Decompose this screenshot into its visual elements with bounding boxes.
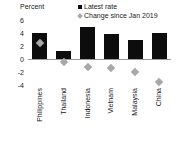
x-label-malaysia: Malaysia xyxy=(131,88,138,116)
plot-area xyxy=(28,20,171,85)
legend-square-icon xyxy=(78,5,82,9)
legend-diamond-icon xyxy=(77,13,83,19)
marker-indonesia xyxy=(83,63,91,71)
y-axis-ticks: -4-20246 xyxy=(8,20,24,85)
bar-indonesia xyxy=(80,27,95,59)
bar-vietnam xyxy=(104,34,119,59)
marker-china xyxy=(155,78,163,86)
y-tick-label: 0 xyxy=(8,56,24,63)
y-axis-title: Percent xyxy=(20,3,44,10)
x-label-philippines: Philippines xyxy=(36,88,43,122)
chart-container: Percent Latest rate Change since Jan 201… xyxy=(0,0,179,142)
legend-item-latest-rate: Latest rate xyxy=(78,2,158,11)
marker-vietnam xyxy=(107,64,115,72)
y-tick-label: 6 xyxy=(8,17,24,24)
x-label-china: China xyxy=(155,88,162,106)
y-tick-label: 2 xyxy=(8,43,24,50)
y-tick-label: -4 xyxy=(8,82,24,89)
zero-baseline xyxy=(28,59,171,60)
legend-label-latest-rate: Latest rate xyxy=(84,2,117,11)
x-axis-category-labels: PhilippinesThailandIndonesiaVietnamMalay… xyxy=(28,88,171,142)
legend-label-change-since: Change since Jan 2019 xyxy=(84,11,158,20)
y-tick-label: 4 xyxy=(8,30,24,37)
chart-legend: Latest rate Change since Jan 2019 xyxy=(78,2,158,20)
bar-china xyxy=(152,33,167,59)
marker-malaysia xyxy=(131,68,139,76)
x-label-indonesia: Indonesia xyxy=(84,88,91,118)
bar-malaysia xyxy=(128,40,143,59)
x-label-thailand: Thailand xyxy=(60,88,67,115)
legend-item-change-since: Change since Jan 2019 xyxy=(78,11,158,20)
y-tick-label: -2 xyxy=(8,69,24,76)
x-label-vietnam: Vietnam xyxy=(107,88,114,114)
